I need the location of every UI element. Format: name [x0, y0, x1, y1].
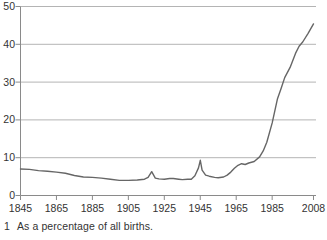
x-axis-label: 1885: [81, 202, 105, 214]
x-axis-label: 2008: [302, 202, 326, 214]
x-axis-label: 1925: [153, 202, 177, 214]
y-axis-label: 50: [3, 0, 15, 12]
x-axis-label: 1865: [45, 202, 69, 214]
y-axis-label: 10: [3, 151, 15, 163]
x-axis-label: 1845: [9, 202, 33, 214]
x-axis-label: 1945: [189, 202, 213, 214]
x-axis-label: 1905: [117, 202, 141, 214]
line-chart: 0102030405018451865188519051925194519651…: [0, 0, 327, 216]
y-axis-label: 40: [3, 38, 15, 50]
x-axis-label: 1985: [260, 202, 284, 214]
chart-figure: 0102030405018451865188519051925194519651…: [0, 0, 327, 240]
x-axis-label: 1965: [225, 202, 249, 214]
footnote-text: As a percentage of all births.: [17, 220, 153, 232]
footnote: 1As a percentage of all births.: [4, 220, 153, 232]
y-axis-label: 20: [3, 113, 15, 125]
footnote-marker: 1: [4, 220, 10, 232]
y-axis-label: 0: [9, 189, 15, 201]
series-line: [21, 24, 314, 181]
y-axis-label: 30: [3, 76, 15, 88]
